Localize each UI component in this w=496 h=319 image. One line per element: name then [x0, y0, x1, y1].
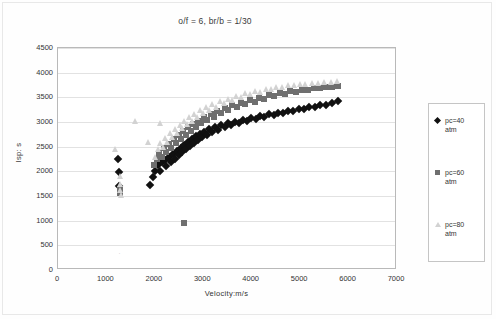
gridline [58, 73, 395, 74]
legend-label: pc=80 atm [445, 220, 483, 238]
legend-label: pc=60 atm [445, 168, 483, 186]
x-axis-ticks: 01000200030004000500060007000 [57, 274, 396, 286]
y-tick-label: 1500 [9, 191, 53, 200]
data-point-series-2 [302, 81, 308, 87]
data-point-series-2 [112, 146, 118, 152]
data-point-series-2 [152, 154, 158, 160]
data-point-series-2 [145, 139, 151, 145]
data-point-series-2 [213, 104, 219, 110]
gridline [58, 171, 395, 172]
gridline [58, 196, 395, 197]
y-axis-title: Isp: s [14, 123, 23, 183]
x-tick-label: 5000 [276, 274, 322, 283]
x-tick-label: 7000 [373, 274, 419, 283]
data-point-series-1 [151, 162, 157, 168]
data-point-series-2 [117, 181, 123, 187]
y-tick-label: 0 [9, 265, 53, 274]
data-point-series-2 [117, 173, 123, 179]
data-point-series-1 [204, 117, 210, 123]
gridline [58, 147, 395, 148]
legend-label: pc=40 atm [445, 116, 483, 134]
gridline [58, 48, 395, 49]
data-point-series-0 [146, 181, 154, 189]
plot-area: · [57, 47, 396, 269]
data-point-series-2 [315, 80, 321, 86]
data-point-series-2 [328, 79, 334, 85]
y-tick-label: 1000 [9, 215, 53, 224]
x-tick-label: 6000 [325, 274, 371, 283]
gridline [58, 245, 395, 246]
x-axis-title: Velocity:m/s [57, 289, 396, 298]
data-point-series-2 [206, 107, 212, 113]
data-point-series-1 [181, 220, 187, 226]
gridline [58, 221, 395, 222]
square-marker-icon [435, 170, 440, 175]
data-point-series-2 [321, 79, 327, 85]
triangle-marker-icon [435, 222, 441, 227]
y-tick-label: 500 [9, 240, 53, 249]
legend-item-2[interactable]: pc=80 atm [435, 220, 483, 238]
data-point-series-2 [334, 78, 340, 84]
data-point-series-2 [309, 80, 315, 86]
data-point-series-2 [118, 192, 124, 198]
data-point-series-1 [211, 114, 217, 120]
data-point-series-2 [157, 120, 163, 126]
x-tick-label: 0 [34, 274, 80, 283]
x-tick-label: 3000 [179, 274, 225, 283]
y-tick-label: 4500 [9, 43, 53, 52]
data-point-series-1 [335, 83, 341, 89]
legend-item-1[interactable]: pc=60 atm [435, 168, 483, 186]
diamond-marker-icon [434, 116, 441, 123]
chart-title: o/f = 6, br/b = 1/30 [0, 16, 430, 26]
x-tick-label: 1000 [82, 274, 128, 283]
y-tick-label: 3500 [9, 92, 53, 101]
x-tick-label: 4000 [228, 274, 274, 283]
data-point-series-1 [323, 84, 329, 90]
x-tick-label: 2000 [131, 274, 177, 283]
stray-annotation: · [119, 250, 121, 256]
data-point-series-0 [114, 155, 122, 163]
data-point-series-2 [200, 110, 206, 116]
y-tick-label: 4000 [9, 67, 53, 76]
legend: pc=40 atmpc=60 atmpc=80 atm [428, 103, 485, 262]
legend-item-0[interactable]: pc=40 atm [435, 116, 483, 134]
data-point-series-1 [317, 85, 323, 91]
chart-page: o/f = 6, br/b = 1/30 · 05001000150020002… [0, 0, 496, 319]
data-point-series-2 [132, 118, 138, 124]
